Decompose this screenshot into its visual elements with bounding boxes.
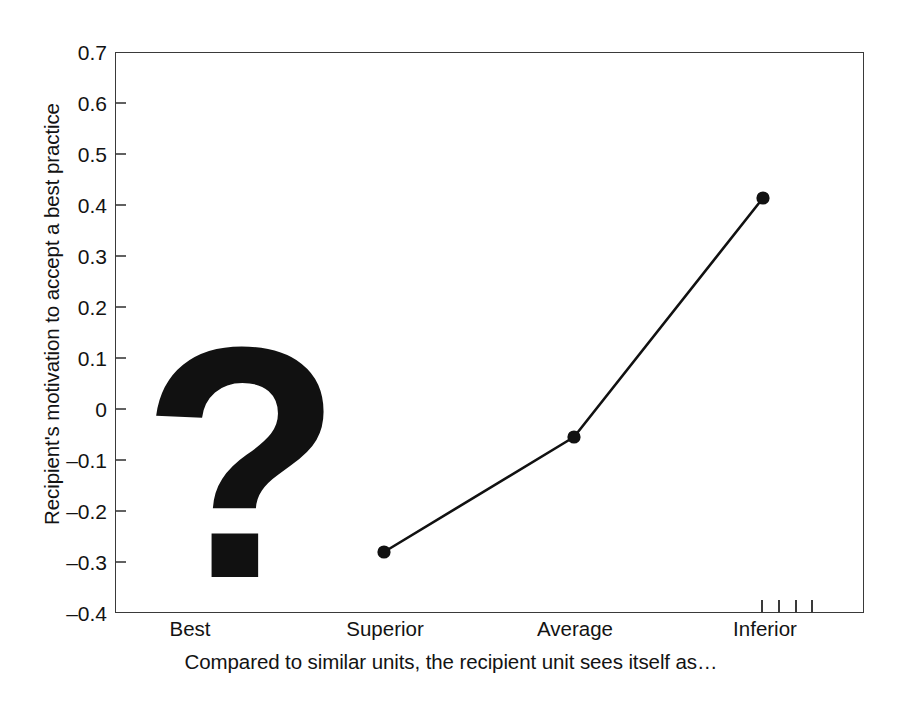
x-axis-tick-labels: Best Superior Average Inferior [0,619,902,649]
y-tick-label: 0.7 [7,42,107,63]
missing-data-question-mark-icon: ? [141,288,237,638]
x-axis-title: Compared to similar units, the recipient… [0,650,902,674]
x-tick-label-superior: Superior [346,619,424,640]
chart-figure: 0.7 0.6 0.5 0.4 0.3 0.2 0.1 0 –0.1 –0.2 … [0,0,902,705]
x-tick-label-average: Average [537,619,613,640]
y-tick-label: –0.3 [7,552,107,573]
x-tick-label-inferior: Inferior [733,619,797,640]
y-axis-title: Recipient's motivation to accept a best … [40,79,64,549]
x-tick-label-best: Best [169,619,210,640]
